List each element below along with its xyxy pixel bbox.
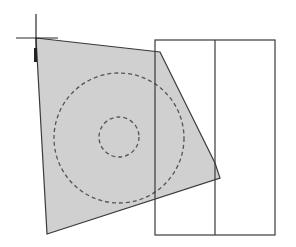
diagram-canvas	[0, 0, 296, 247]
edge-marker	[34, 48, 37, 62]
